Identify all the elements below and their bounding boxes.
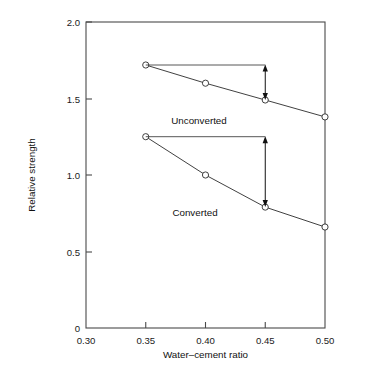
y-tick-label-2: 2.0 — [67, 17, 80, 28]
x-axis-ticks — [146, 322, 266, 328]
x-tick-label-0-40: 0.40 — [196, 335, 215, 346]
series-markers-converted — [143, 134, 328, 231]
y-tick-label-0-5: 0.5 — [67, 247, 80, 258]
y-tick-label-1-5: 1.5 — [67, 94, 80, 105]
series-label-converted: Converted — [172, 207, 217, 218]
x-tick-label-0-35: 0.35 — [136, 335, 155, 346]
y-axis-ticks — [86, 22, 92, 252]
converted-drop-arrow — [263, 136, 268, 207]
chart-figure: 2.0 1.5 1.0 0.5 0 0.30 0.35 0.40 0.45 0.… — [0, 0, 365, 369]
series-markers-unconverted — [143, 62, 328, 120]
x-axis-title: Water–cement ratio — [163, 349, 249, 360]
x-tick-label-0-45: 0.45 — [256, 335, 275, 346]
y-tick-label-0: 0 — [75, 323, 80, 334]
series-line-unconverted — [146, 65, 325, 117]
unconverted-drop-arrow — [263, 65, 268, 101]
x-tick-label-0-50: 0.50 — [316, 335, 335, 346]
series-label-unconverted: Unconverted — [171, 115, 227, 126]
x-tick-label-0-30: 0.30 — [77, 335, 96, 346]
relative-strength-vs-water-cement-ratio-chart: 2.0 1.5 1.0 0.5 0 0.30 0.35 0.40 0.45 0.… — [0, 0, 365, 369]
y-axis-title: Relative strength — [26, 138, 37, 212]
y-tick-label-1: 1.0 — [67, 170, 80, 181]
